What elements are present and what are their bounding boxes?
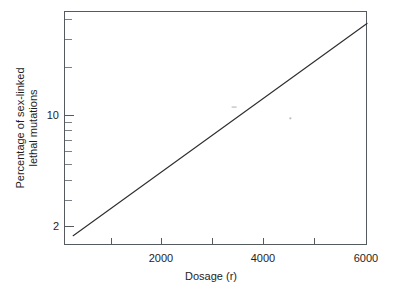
- y-axis-tick-labels: 10 2: [47, 109, 59, 232]
- x-axis-tick-labels: 2000 4000 6000: [149, 252, 378, 264]
- x-tick-label-6000: 6000: [354, 252, 378, 264]
- x-axis-label: Dosage (r): [185, 270, 237, 282]
- y-axis-label-line1: Percentage of sex-linked: [14, 67, 26, 188]
- x-tick-label-4000: 4000: [251, 252, 275, 264]
- y-tick-label-10: 10: [47, 109, 59, 121]
- data-series-line: [73, 23, 367, 235]
- scan-speck: [232, 106, 237, 107]
- y-axis-label-line2: lethal mutations: [27, 89, 39, 167]
- x-tick-label-2000: 2000: [149, 252, 173, 264]
- y-tick-label-2: 2: [53, 220, 59, 232]
- figure-container: 2000 4000 6000 Dosage (r): [0, 0, 397, 294]
- log-linear-line-chart: 2000 4000 6000 Dosage (r): [0, 0, 397, 294]
- x-axis-ticks: [112, 238, 367, 245]
- y-axis-label: Percentage of sex-linked lethal mutation…: [14, 67, 39, 188]
- scan-speck: [289, 117, 291, 119]
- y-axis-ticks: [65, 20, 74, 227]
